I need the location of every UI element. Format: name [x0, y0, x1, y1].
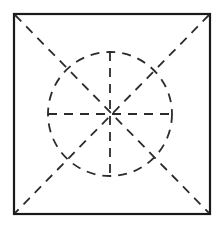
figure-canvas	[0, 0, 218, 227]
geometric-figure	[0, 0, 218, 227]
figure-background	[0, 0, 218, 227]
